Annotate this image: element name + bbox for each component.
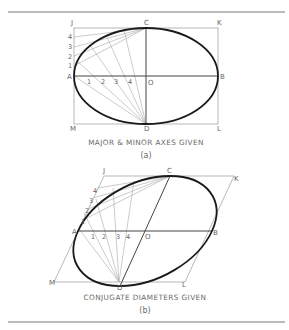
- axis-division-1: 1: [87, 78, 91, 86]
- label-o-b: O: [145, 233, 151, 241]
- figure-b: J C K A B O M D L 1 2 3 4 1 2 3 4 CONJUG…: [49, 167, 239, 315]
- label-c-b: C: [167, 167, 172, 175]
- figure-a: J C K A B O M D L 1 2 3 4 1 2 3 4 MAJOR …: [67, 19, 225, 160]
- side-division-3: 3: [68, 43, 72, 51]
- sublabel-b: (b): [139, 306, 150, 315]
- side-division-4-b: 4: [93, 187, 97, 195]
- label-a-b: A: [72, 228, 77, 236]
- label-b-b: B: [213, 229, 218, 237]
- label-c: C: [144, 19, 149, 27]
- parallelogram-jklm: [54, 176, 234, 282]
- label-a: A: [67, 73, 72, 81]
- construction-lines-from-c-b: [83, 176, 170, 220]
- label-j: J: [70, 19, 73, 27]
- caption-b: CONJUGATE DIAMETERS GIVEN: [84, 293, 207, 302]
- label-b: B: [220, 73, 225, 81]
- side-division-2-b: 2: [85, 207, 89, 215]
- side-division-1: 1: [68, 62, 72, 70]
- label-m: M: [70, 125, 76, 133]
- axis-division-1-b: 1: [91, 233, 95, 241]
- label-k-b: K: [234, 175, 239, 183]
- sublabel-a: (a): [140, 151, 151, 160]
- label-j-b: J: [102, 167, 105, 175]
- axis-division-2: 2: [101, 78, 105, 86]
- axis-division-4: 4: [128, 78, 132, 86]
- side-division-1-b: 1: [81, 218, 85, 226]
- side-division-3-b: 3: [89, 197, 93, 205]
- caption-a: MAJOR & MINOR AXES GIVEN: [88, 138, 204, 147]
- axis-division-3: 3: [114, 78, 118, 86]
- label-l: L: [217, 125, 221, 133]
- label-m-b: M: [49, 279, 55, 287]
- axis-division-2-b: 2: [102, 233, 106, 241]
- side-division-2: 2: [68, 53, 72, 61]
- ellipse-construction-diagram: J C K A B O M D L 1 2 3 4 1 2 3 4 MAJOR …: [0, 0, 289, 330]
- label-d: D: [144, 125, 149, 133]
- label-o: O: [148, 79, 154, 87]
- axis-division-3-b: 3: [116, 233, 120, 241]
- label-k: K: [217, 19, 222, 27]
- label-d-b: D: [117, 284, 122, 292]
- side-division-4: 4: [68, 33, 72, 41]
- label-l-b: L: [182, 281, 186, 289]
- axis-division-4-b: 4: [126, 233, 130, 241]
